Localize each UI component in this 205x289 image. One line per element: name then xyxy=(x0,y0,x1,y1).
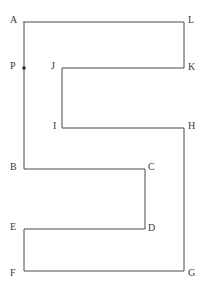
vertex-label-e: E xyxy=(10,222,16,232)
polygon-outline xyxy=(24,22,184,271)
vertex-marker-group xyxy=(22,66,26,70)
point-marker-p xyxy=(22,66,26,70)
vertex-label-a: A xyxy=(10,15,17,25)
vertex-label-g: G xyxy=(188,268,195,278)
polygon-svg xyxy=(0,0,205,289)
vertex-label-l: L xyxy=(188,15,194,25)
vertex-label-h: H xyxy=(188,121,195,131)
vertex-label-p: P xyxy=(10,61,16,71)
vertex-label-j: J xyxy=(51,61,55,71)
polygon-figure: ALKJIHGFEDCBP xyxy=(0,0,205,289)
vertex-label-f: F xyxy=(10,268,16,278)
vertex-label-b: B xyxy=(10,162,17,172)
vertex-label-d: D xyxy=(148,223,155,233)
vertex-label-i: I xyxy=(53,121,56,131)
vertex-label-c: C xyxy=(148,162,155,172)
vertex-label-k: K xyxy=(188,62,195,72)
